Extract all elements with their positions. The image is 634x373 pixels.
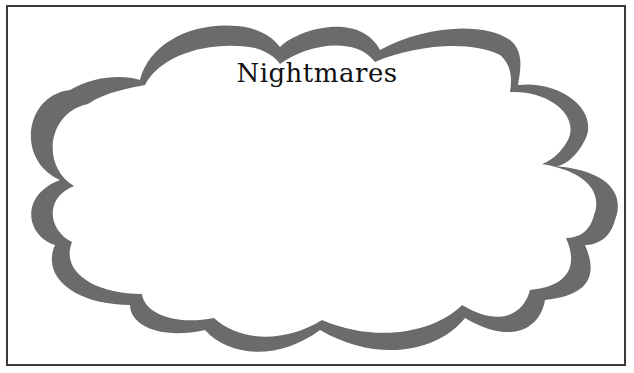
cloud-shape xyxy=(0,0,634,373)
card-title: Nightmares xyxy=(0,58,634,88)
